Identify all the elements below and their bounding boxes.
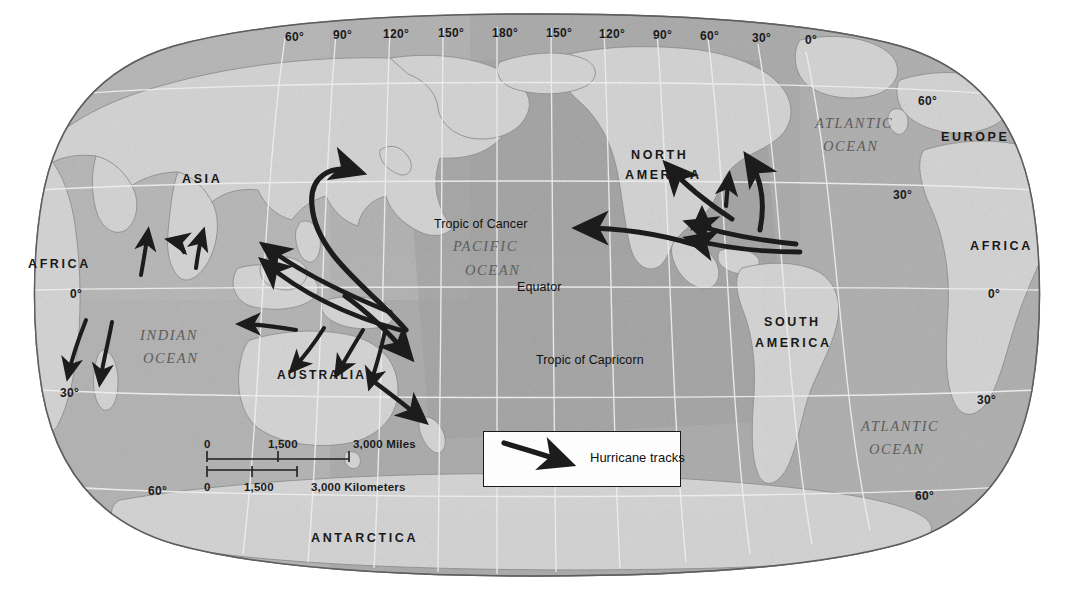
longitude-label-0: 60° — [285, 30, 304, 44]
continent-label-south-6: SOUTH — [764, 315, 821, 329]
longitude-label-8: 60° — [700, 29, 719, 43]
annotation-equator: Equator — [517, 280, 561, 294]
ocean-label-ocean-7: OCEAN — [869, 441, 925, 458]
scale-bar — [0, 0, 1075, 589]
ocean-label-atlantic-4: ATLANTIC — [815, 115, 893, 132]
longitude-label-9: 30° — [752, 31, 771, 45]
longitude-label-2: 120° — [383, 27, 409, 41]
scale-label-miles-0: 0 — [204, 438, 211, 450]
latitude-label-left-7: 60° — [148, 484, 167, 498]
longitude-label-4: 180° — [492, 26, 518, 40]
hurricane-tracks-map: Hurricane tracks 60°90°120°150°180°150°1… — [0, 0, 1075, 589]
longitude-label-10: 0° — [805, 33, 817, 47]
longitude-label-7: 90° — [653, 28, 672, 42]
annotation-tropic-of-capricorn: Tropic of Capricorn — [536, 353, 644, 367]
scale-label-miles-1: 1,500 — [268, 438, 298, 450]
annotation-tropic-of-cancer: Tropic of Cancer — [434, 217, 528, 231]
ocean-label-ocean-5: OCEAN — [823, 138, 879, 155]
ocean-label-ocean-1: OCEAN — [465, 262, 521, 279]
continent-label-america-7: AMERICA — [755, 336, 832, 350]
ocean-label-indian-2: INDIAN — [140, 327, 198, 344]
continent-label-africa-1: AFRICA — [28, 257, 91, 271]
ocean-label-atlantic-6: ATLANTIC — [861, 418, 939, 435]
continent-label-europe-8: EUROPE — [941, 130, 1009, 144]
scale-label-miles-2: 3,000 Miles — [353, 438, 416, 450]
scale-label-kilometers-0: 0 — [204, 481, 211, 493]
continent-label-asia-0: ASIA — [182, 172, 222, 186]
latitude-label-right-2: 0° — [988, 287, 1000, 301]
continent-label-north-4: NORTH — [631, 148, 688, 162]
scale-label-kilometers-1: 1,500 — [244, 481, 274, 493]
longitude-label-3: 150° — [438, 26, 464, 40]
latitude-label-right-0: 60° — [918, 94, 937, 108]
longitude-label-1: 90° — [333, 28, 352, 42]
continent-label-africa-9: AFRICA — [970, 239, 1033, 253]
ocean-label-pacific-0: PACIFIC — [453, 238, 518, 255]
continent-label-america-5: AMERICA — [625, 168, 702, 182]
scale-label-kilometers-2: 3,000 Kilometers — [311, 481, 406, 493]
scale-bar-kilometers — [207, 466, 297, 477]
continent-label-antarctica-3: ANTARCTICA — [311, 531, 418, 545]
latitude-label-right-3: 30° — [977, 393, 996, 407]
ocean-label-ocean-3: OCEAN — [143, 350, 199, 367]
latitude-label-right-4: 60° — [915, 489, 934, 503]
continent-label-australia-2: AUSTRALIA — [277, 368, 366, 382]
latitude-label-left-6: 30° — [60, 386, 79, 400]
latitude-label-right-1: 30° — [893, 188, 912, 202]
scale-bar-miles — [207, 451, 349, 462]
longitude-label-5: 150° — [546, 26, 572, 40]
latitude-label-left-5: 0° — [70, 287, 82, 301]
longitude-label-6: 120° — [599, 27, 625, 41]
